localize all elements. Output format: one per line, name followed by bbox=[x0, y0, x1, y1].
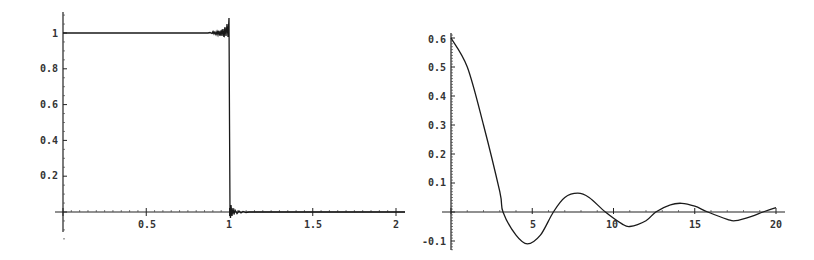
right-y-tick-label: 0.6 bbox=[428, 34, 446, 45]
right-y-tick-label: 0.2 bbox=[428, 149, 446, 160]
left-y-tick-label: 0.4 bbox=[40, 135, 58, 146]
square-pulse-curve bbox=[63, 18, 405, 218]
left-x-tick-label: 1.5 bbox=[304, 219, 322, 230]
right-y-tick-label: 0.1 bbox=[428, 177, 446, 188]
left-y-tick-label: 0.2 bbox=[40, 170, 58, 181]
left-y-tick-label: 0.8 bbox=[40, 63, 58, 74]
right-y-tick-label: 0.5 bbox=[428, 62, 446, 73]
right-x-tick-label: 15 bbox=[689, 219, 701, 230]
right-y-tick-label: -0.1 bbox=[422, 236, 446, 247]
left-x-tick-label: 2 bbox=[393, 219, 399, 230]
right-y-tick-label: 0.4 bbox=[428, 91, 446, 102]
left-y-tick-label: 1 bbox=[52, 28, 58, 39]
right-y-tick-label: 0.3 bbox=[428, 120, 446, 131]
right-chart: 5 10 15 20 0.6 0.5 0.4 0.3 0.2 0.1 -0.1 bbox=[422, 33, 785, 250]
left-x-tick-label: 0.5 bbox=[138, 219, 156, 230]
left-y-tick-label: 0.6 bbox=[40, 99, 58, 110]
right-x-tick-label: 20 bbox=[770, 219, 782, 230]
left-x-tick-label: 1 bbox=[226, 219, 232, 230]
right-x-tick-label: 5 bbox=[530, 219, 536, 230]
left-chart: 0.5 1 1.5 2 0.2 0.4 0.6 0.8 1 bbox=[40, 12, 405, 239]
figure: 0.5 1 1.5 2 0.2 0.4 0.6 0.8 1 5 10 15 20… bbox=[0, 0, 814, 260]
